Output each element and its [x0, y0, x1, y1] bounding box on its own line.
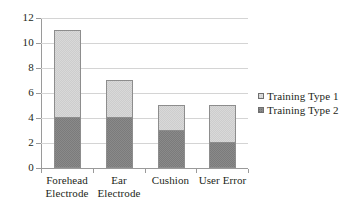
legend-item-training-type-2[interactable]: Training Type 2: [258, 103, 339, 117]
bar-segment-training-type-1[interactable]: [106, 80, 133, 118]
y-tick-label-4: 4: [0, 112, 34, 123]
y-tick-label-2: 2: [0, 137, 34, 148]
y-tick-label-10: 10: [0, 37, 34, 48]
y-tick-label-6: 6: [0, 87, 34, 98]
plot-area: [41, 18, 248, 168]
legend-label-training-type-1: Training Type 1: [267, 91, 339, 102]
bar-segment-training-type-2[interactable]: [106, 117, 133, 168]
x-tick-4: [248, 169, 249, 173]
bar-segment-training-type-2[interactable]: [158, 130, 185, 168]
x-tick-2: [145, 169, 146, 173]
legend-item-training-type-1[interactable]: Training Type 1: [258, 89, 339, 103]
legend-swatch-icon-training-type-1: [258, 93, 264, 99]
y-tick-label-8: 8: [0, 62, 34, 73]
x-axis-label-user-error: User Error: [185, 174, 260, 187]
stacked-bar-chart: 12 10 8 6 4 2 0 Forehead Electro: [0, 0, 358, 210]
bar-segment-training-type-1[interactable]: [158, 105, 185, 131]
bar-segment-training-type-1[interactable]: [54, 30, 81, 118]
legend-label-training-type-2: Training Type 2: [267, 105, 339, 116]
legend-swatch-icon-training-type-2: [258, 107, 264, 113]
x-tick-0: [41, 169, 42, 173]
x-tick-1: [93, 169, 94, 173]
bar-segment-training-type-2[interactable]: [209, 142, 236, 168]
y-tick-label-12: 12: [0, 12, 34, 23]
x-tick-3: [196, 169, 197, 173]
y-tick-label-0: 0: [0, 162, 34, 173]
bar-segment-training-type-1[interactable]: [209, 105, 236, 143]
bar-segment-training-type-2[interactable]: [54, 117, 81, 168]
chart-legend: Training Type 1 Training Type 2: [258, 89, 339, 117]
